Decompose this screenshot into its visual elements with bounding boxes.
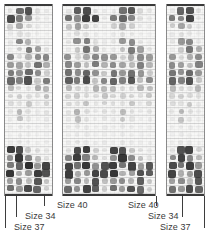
blot-spot (44, 24, 49, 29)
blot-spot (102, 132, 107, 137)
blot-spot (169, 93, 175, 98)
blot-spot (110, 178, 117, 184)
blot-spot (137, 170, 144, 177)
blot-spot (25, 62, 31, 68)
blot-spot (93, 39, 98, 44)
blot-spot (195, 177, 203, 185)
blot-spot (16, 178, 23, 184)
blot-spot (119, 7, 126, 14)
blot-spot (109, 162, 117, 169)
blot-spot (25, 32, 30, 37)
blot-spot (110, 185, 117, 191)
blot-spot (146, 101, 151, 107)
blot-spot (84, 178, 90, 184)
blot-spot (119, 62, 125, 69)
blot-spot (84, 109, 89, 115)
spot-grid (62, 4, 156, 196)
blot-spot (194, 170, 202, 178)
row-separator (167, 115, 204, 116)
blot-spot (196, 147, 202, 152)
blot-spot (112, 9, 117, 14)
label-size-40-right: Size 40 (128, 200, 159, 210)
blot-spot (25, 15, 32, 21)
blot-spot (7, 15, 15, 23)
blot-spot (44, 140, 49, 145)
blot-spot (84, 93, 89, 98)
blot-spot (44, 40, 49, 45)
blot-spot (44, 124, 49, 129)
blot-spot (185, 146, 193, 154)
blot-spot (178, 186, 184, 192)
blot-spot (138, 24, 143, 29)
blot-spot (73, 154, 81, 161)
blot-spot (84, 86, 89, 91)
blot-spot (83, 146, 91, 153)
blot-spot (65, 69, 72, 76)
blot-spot (146, 93, 152, 98)
blot-spot (44, 117, 49, 121)
blot-spot (92, 70, 99, 76)
blot-spot (119, 162, 126, 168)
blot-spot (138, 70, 144, 77)
blot-spot (66, 47, 71, 52)
blot-spot (111, 109, 116, 114)
blot-spot (82, 154, 89, 161)
blot-spot (74, 147, 82, 154)
blot-spot (44, 148, 49, 153)
blot-spot (26, 140, 31, 144)
blot-spot (83, 46, 90, 53)
blot-spot (102, 47, 107, 52)
label-size-34-left: Size 34 (25, 211, 56, 221)
row-separator (167, 138, 204, 139)
blot-spot (187, 31, 192, 36)
blot-spot (17, 31, 22, 36)
blot-spot (24, 76, 32, 84)
blot-spot (16, 39, 23, 45)
blot-spot (74, 62, 81, 68)
blot-spot (8, 109, 13, 113)
blot-spot (129, 62, 135, 68)
blot-spot (35, 141, 40, 146)
blot-spot (8, 133, 12, 138)
blot-spot (178, 101, 183, 106)
blot-spot (179, 125, 184, 129)
blot-spot (44, 9, 49, 13)
blot-spot (187, 93, 193, 98)
leader-line-size-37-left (5, 196, 6, 228)
blot-spot (26, 116, 31, 122)
blot-spot (179, 32, 184, 37)
blot-spot (84, 62, 90, 67)
blot-spot (66, 117, 71, 122)
blot-spot (64, 186, 71, 193)
blot-spot (25, 69, 33, 76)
blot-spot (129, 101, 135, 107)
row-separator (5, 92, 52, 93)
blot-spot (138, 40, 143, 45)
blot-spot (128, 15, 135, 21)
blot-spot (92, 185, 99, 192)
blot-spot (186, 39, 193, 45)
blot-spot (187, 140, 192, 145)
blot-spot (170, 101, 175, 106)
blot-spot (35, 8, 40, 13)
blot-spot (18, 125, 23, 129)
blot-spot (101, 62, 107, 69)
blot-spot (130, 32, 135, 36)
blot-spot (26, 86, 31, 91)
blot-spot (170, 155, 177, 161)
blot-spot (92, 155, 98, 160)
blot-spot (128, 155, 135, 161)
row-separator (167, 123, 204, 124)
blot-spot (84, 38, 91, 44)
blot-spot (44, 94, 50, 100)
blot-spot (146, 54, 152, 61)
blot-spot (177, 7, 184, 15)
blot-spot (66, 125, 71, 129)
blot-spot (146, 162, 153, 169)
blot-spot (94, 32, 99, 37)
blot-spot (93, 109, 98, 114)
blot-spot (137, 77, 143, 83)
blot-spot (120, 47, 126, 52)
blot-spot (18, 133, 23, 138)
blot-spot (16, 70, 23, 76)
